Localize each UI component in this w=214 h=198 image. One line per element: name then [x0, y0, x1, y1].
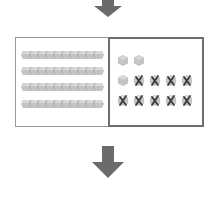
tens-rod [21, 50, 105, 60]
crossed-out-unit-cube [166, 75, 176, 86]
tens-panel [15, 37, 109, 127]
down-arrow-bottom-icon [91, 146, 125, 179]
crossed-out-unit-cube [150, 75, 160, 86]
ones-panel [108, 37, 204, 127]
unit-cube [118, 55, 128, 66]
crossed-out-unit-cube [182, 95, 192, 106]
unit-cube [118, 75, 128, 86]
crossed-out-unit-cube [166, 95, 176, 106]
tens-rod [21, 82, 105, 92]
crossed-out-unit-cube [182, 75, 192, 86]
crossed-out-unit-cube [134, 75, 144, 86]
tens-rod [21, 66, 105, 76]
unit-cube [134, 55, 144, 66]
crossed-out-unit-cube [134, 95, 144, 106]
tens-rod [21, 99, 105, 109]
crossed-out-unit-cube [150, 95, 160, 106]
crossed-out-unit-cube [118, 95, 128, 106]
down-arrow-top-icon [92, 0, 124, 18]
